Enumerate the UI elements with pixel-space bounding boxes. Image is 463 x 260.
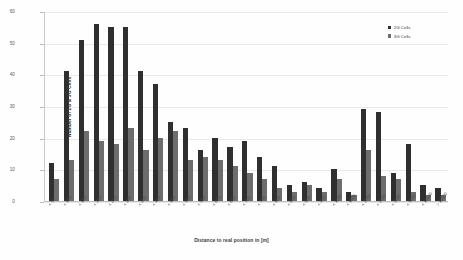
bar-3g-cells[interactable] (143, 150, 148, 201)
bar-group (168, 12, 178, 201)
bar-group (108, 12, 118, 201)
y-axis-tick-label: 40 (0, 72, 15, 77)
bar-3g-cells[interactable] (99, 141, 104, 201)
plot-area: Number of 2G & 3G Cells (44, 12, 448, 202)
bar-3g-cells[interactable] (158, 138, 163, 201)
bar-3g-cells[interactable] (188, 160, 193, 201)
bar-3g-cells[interactable] (203, 157, 208, 201)
y-axis-title: Number of 2G & 3G Cells (67, 37, 72, 177)
y-axis-tick-label: 10 (0, 167, 15, 172)
bar-group (302, 12, 312, 201)
y-axis-tick-label: 50 (0, 41, 15, 46)
bar-group (316, 12, 326, 201)
bar-group (153, 12, 163, 201)
y-axis-tick-label: 30 (0, 104, 15, 109)
y-axis-tick-label: 0 (0, 199, 15, 204)
bar-3g-cells[interactable] (173, 131, 178, 201)
bar-group (287, 12, 297, 201)
legend-item-3g[interactable]: 3G Cells (388, 34, 411, 39)
legend-label-3g: 3G Cells (394, 34, 411, 39)
bar-group (435, 12, 445, 201)
y-axis-tick-label: 60 (0, 9, 15, 14)
legend: 2G Cells 3G Cells (388, 25, 411, 39)
bar-group (242, 12, 252, 201)
bar-group (346, 12, 356, 201)
x-axis-labels: < 50< 100< 150< 200< 250< 300< 350< 400<… (44, 203, 448, 235)
bar-group (123, 12, 133, 201)
bar-group (420, 12, 430, 201)
legend-item-2g[interactable]: 2G Cells (388, 25, 411, 30)
bar-group (406, 12, 416, 201)
bar-groups (46, 12, 448, 201)
legend-swatch-2g-icon (388, 26, 391, 29)
bar-group (272, 12, 282, 201)
bar-3g-cells[interactable] (114, 144, 119, 201)
bar-group (138, 12, 148, 201)
bar-group (198, 12, 208, 201)
bar-group (257, 12, 267, 201)
bar-group (376, 12, 386, 201)
y-axis-tick-label: 20 (0, 136, 15, 141)
bar-group (331, 12, 341, 201)
bar-3g-cells[interactable] (84, 131, 89, 201)
bar-group (227, 12, 237, 201)
x-axis-title: Distance to real position in [m] (0, 238, 463, 243)
bar-group (79, 12, 89, 201)
bar-group (212, 12, 222, 201)
bar-chart: 0102030405060 Number of 2G & 3G Cells < … (0, 0, 463, 260)
bar-group (361, 12, 371, 201)
bar-group (391, 12, 401, 201)
legend-label-2g: 2G Cells (394, 25, 411, 30)
bar-group (49, 12, 59, 201)
legend-swatch-3g-icon (388, 34, 391, 37)
bar-group (183, 12, 193, 201)
bar-group (94, 12, 104, 201)
bar-3g-cells[interactable] (128, 128, 133, 201)
